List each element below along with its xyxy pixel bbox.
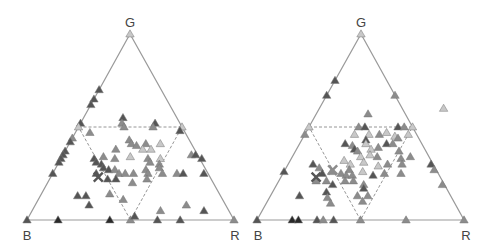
data-point-triangle [357,30,365,37]
data-point-triangle [406,153,414,160]
vertex-label-b: B [254,228,263,243]
data-point-triangle [397,169,405,176]
data-point-triangle [322,177,330,184]
data-point-triangle [361,123,369,130]
vertex-label-g: G [356,15,366,30]
data-point-triangle [400,123,408,130]
data-point-triangle [341,140,349,147]
data-point-triangle [438,180,446,187]
data-point-triangle [322,91,330,98]
data-point-triangle [375,130,383,137]
data-point-triangle [374,162,382,169]
data-point-triangle [253,216,261,223]
data-point-triangle [408,123,416,130]
data-point-triangle [309,160,317,167]
data-point-triangle [353,192,361,199]
ternary-charts-figure: G B R G B R [0,0,491,252]
data-point-triangle [460,216,468,223]
data-point-triangle [322,188,330,195]
data-point-triangle [382,128,390,135]
data-point-triangle [301,130,309,137]
data-point-triangle [395,147,403,154]
data-point-triangle [294,216,302,223]
data-point-triangle [340,156,348,163]
data-point-triangle [364,110,372,117]
data-point-triangle [374,143,382,150]
data-point-triangle [364,192,372,199]
data-point-triangle [391,91,399,98]
data-point-triangle [356,216,364,223]
data-point-triangle [383,160,391,167]
data-point-triangle [305,123,313,130]
data-point-triangle [350,130,358,137]
data-point-triangle [359,167,367,174]
data-point-triangle [373,153,381,160]
ternary-plot-right: G B R [0,0,491,252]
data-point-triangle [319,216,327,223]
data-point-triangle [397,154,405,161]
data-point-triangle [329,216,337,223]
data-point-triangle [369,171,377,178]
data-point-triangle [380,169,388,176]
data-point-triangle [404,130,412,137]
data-point-triangle [280,167,288,174]
data-point-triangle [439,104,447,111]
vertex-label-r: R [461,228,470,243]
data-point-triangle [295,192,303,199]
data-point-triangle [402,216,410,223]
data-point-triangle [331,76,339,83]
